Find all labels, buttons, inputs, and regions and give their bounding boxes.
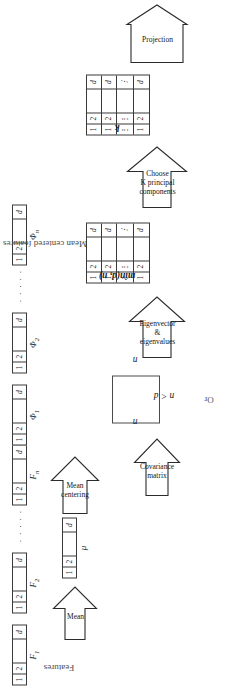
projection-arrow: Projection — [126, 3, 188, 63]
phi-vector-1: 1 2 d Φ1 — [12, 384, 40, 445]
feature-vector-2-label: F2 — [28, 552, 40, 613]
cell-2: 2 — [13, 482, 26, 493]
eigen-arrow: Eigenvector & eigenvalues — [128, 295, 186, 357]
cell-d: d — [13, 445, 26, 458]
feature-vector-1-label: F1 — [28, 624, 40, 685]
vector-cells: 1 2 d — [12, 444, 27, 505]
cell-dots-d: ⋮ — [117, 223, 133, 236]
cell-d: d — [87, 75, 101, 88]
eigen-matrix: 1 2 d 1 2 d ⋮ ⋮ ⋮ 1 — [86, 222, 150, 283]
cell-2: 2 — [13, 662, 26, 673]
cell-2: 2 — [13, 590, 26, 601]
cell-dots-2: ⋮ — [117, 112, 133, 123]
cell-blank — [63, 531, 76, 555]
cell-1: 1 — [13, 433, 26, 444]
covariance-matrix-arrow: Covariance matrix — [133, 437, 181, 495]
vector-cells: 1 2 d — [12, 312, 27, 373]
feature-vector-2: 1 2 d F2 — [12, 552, 40, 613]
phi-vector-n-label: Φn — [28, 204, 40, 265]
square-b-condition: n < d — [144, 390, 184, 400]
cell-d: d — [13, 205, 26, 218]
vector-cells: 1 2 d — [12, 624, 27, 685]
figure-viewport: 1 2 d F1 1 2 d F2 · · · · · 1 — [0, 0, 230, 691]
cell-blank — [117, 236, 133, 260]
features-ellipsis: · · · · · — [15, 509, 25, 542]
cell-2: 2 — [87, 260, 101, 271]
cell-dots-2: ⋮ — [117, 260, 133, 271]
cell-blank — [87, 88, 101, 112]
cell-1: 1 — [13, 361, 26, 372]
cell-blank — [13, 638, 26, 662]
phi-vector-2: 1 2 d Φ2 — [12, 312, 40, 373]
vector-cells: 1 2 d — [12, 204, 27, 265]
cell-blank — [13, 398, 26, 422]
k-matrix-label: k — [87, 122, 147, 132]
cell-2: 2 — [134, 260, 149, 271]
cell-2: 2 — [87, 112, 101, 123]
vector-cells: 1 2 d — [62, 517, 77, 578]
cell-dots-d: ⋮ — [117, 75, 133, 88]
vector-cells: 1 2 d — [12, 552, 27, 613]
cell-2: 2 — [102, 112, 116, 123]
cell-d: d — [13, 313, 26, 326]
cell-blank — [102, 88, 116, 112]
caption-features: Features — [29, 662, 89, 672]
cell-1: 1 — [13, 673, 26, 684]
cell-1: 1 — [13, 601, 26, 612]
cell-blank — [87, 236, 101, 260]
or-label: Or — [191, 394, 227, 404]
phi-vector-1-label: Φ1 — [28, 384, 40, 445]
cell-d: d — [13, 553, 26, 566]
cell-1: 1 — [13, 253, 26, 264]
mean-centering-arrow: Mean centering — [50, 455, 100, 513]
feature-vector-1: 1 2 d F1 — [12, 624, 40, 685]
cell-blank — [134, 88, 149, 112]
pca-flowchart-canvas: 1 2 d F1 1 2 d F2 · · · · · 1 — [0, 0, 230, 691]
choose-k-arrow: Choose K principal components — [126, 145, 188, 207]
cell-blank — [134, 236, 149, 260]
cell-2: 2 — [102, 260, 116, 271]
cell-d: d — [134, 223, 149, 236]
cell-d: d — [87, 223, 101, 236]
cell-blank — [117, 88, 133, 112]
covariance-square-b: n n n < d — [112, 375, 160, 423]
phi-ellipsis: · · · · · — [15, 269, 25, 302]
mu-vector: 1 2 d μ — [62, 517, 88, 578]
cell-blank — [102, 236, 116, 260]
cell-2: 2 — [13, 350, 26, 361]
cell-d: d — [102, 75, 116, 88]
square-b-bottom-label: n — [115, 416, 155, 426]
cell-d: d — [13, 385, 26, 398]
feature-vector-n: 1 2 d Fn — [12, 444, 40, 505]
cell-d: d — [102, 223, 116, 236]
cell-d: d — [63, 518, 76, 531]
cell-2: 2 — [13, 422, 26, 433]
cell-d: d — [13, 625, 26, 638]
cell-d: d — [134, 75, 149, 88]
eigen-matrix-label: min(d, n) — [82, 270, 152, 280]
cell-blank — [13, 566, 26, 590]
mu-label: μ — [78, 517, 88, 578]
phi-vector-n: 1 2 d Φn — [12, 204, 40, 265]
phi-vector-2-label: Φ2 — [28, 312, 40, 373]
feature-vector-n-label: Fn — [28, 444, 40, 505]
k-matrix: 1 2 d 1 2 d ⋮ ⋮ ⋮ 1 — [86, 74, 150, 135]
cell-2: 2 — [134, 112, 149, 123]
cell-1: 1 — [13, 493, 26, 504]
cell-1: 1 — [63, 566, 76, 577]
vector-cells: 1 2 d — [12, 384, 27, 445]
cell-2: 2 — [63, 555, 76, 566]
mean-arrow: Mean — [52, 585, 98, 639]
cell-blank — [13, 458, 26, 482]
cell-blank — [13, 326, 26, 350]
